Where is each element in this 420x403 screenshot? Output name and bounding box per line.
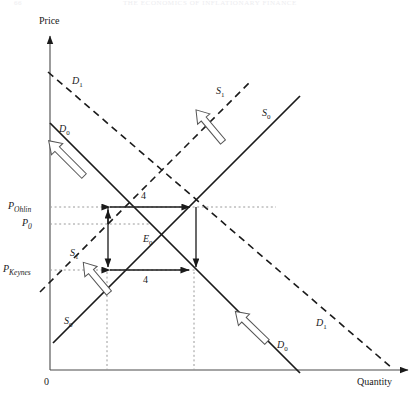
y-axis-label: Price [39,16,60,26]
curve-label-s1-upper: S1 [216,86,225,99]
curve-label-d0-upper: D0 [59,124,70,137]
equilibrium-label-e0: E0 [143,234,153,247]
price-label-keynes: PKeynes [3,264,31,277]
shift-arrow-demand-lower [230,306,273,348]
origin-label: 0 [44,377,49,387]
gap-value-upper: 4 [141,191,146,201]
shift-arrow-supply-lower [77,257,115,298]
price-label-p0: P0 [22,218,32,231]
curve-label-d1-upper: D1 [72,76,83,89]
shift-arrow-supply-upper [190,105,229,147]
guide-lines [50,207,276,370]
price-label-ohlin: POhlin [8,201,31,214]
curve-label-s0-lower: S0 [64,316,73,329]
curve-label-s1-lower: S1 [70,248,79,261]
diagram-canvas [0,0,420,403]
curve-label-d0-lower: D0 [277,340,288,353]
axis-lines [50,36,408,370]
supply-curve-s0 [53,96,300,343]
demand-curve-d1 [48,72,392,368]
x-axis-label: Quantity [357,377,392,387]
economics-supply-demand-diagram: 66 THE ECONOMICS OF INFLATIONARY FINANCE [0,0,420,403]
curve-label-d1-lower: D1 [316,318,327,331]
curve-label-s0-upper: S0 [262,108,271,121]
gap-value-lower: 4 [143,275,148,285]
